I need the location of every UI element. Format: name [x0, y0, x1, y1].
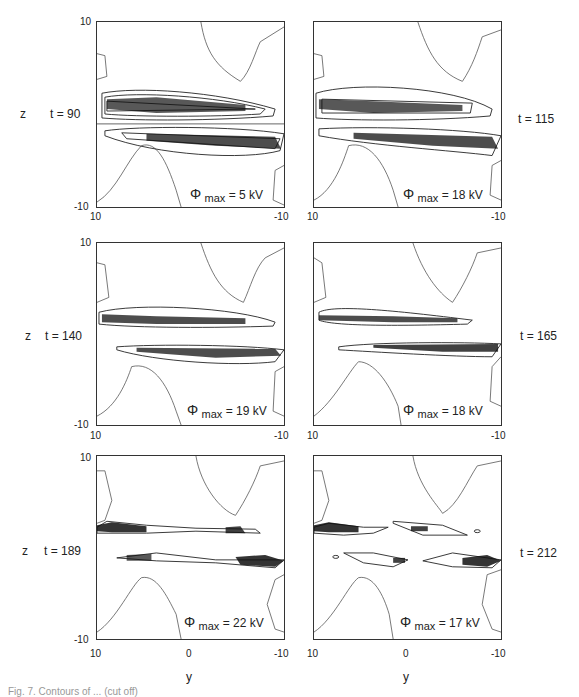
y-tick-left: 10: [307, 648, 318, 659]
y-tick-left: 10: [307, 211, 318, 222]
y-tick-left: 10: [307, 430, 318, 441]
z-tick-top: 10: [80, 452, 91, 463]
phi-symbol: Φ: [403, 186, 414, 202]
contour-plot: [97, 456, 284, 639]
contour-panel-t115: [313, 21, 502, 208]
phi-value: = 19 kV: [226, 404, 267, 418]
phi-symbol: Φ: [400, 614, 411, 630]
figure-caption: Fig. 7. Contours of ... (cut off): [8, 686, 138, 697]
z-axis-label-row2: z: [25, 329, 31, 343]
y-tick-right: -10: [491, 430, 505, 441]
phi-value: = 5 kV: [229, 188, 263, 202]
contour-plot: [97, 243, 284, 425]
phi-max-label-t189: Φ max = 22 kV: [184, 614, 264, 630]
phi-value: = 17 kV: [439, 616, 480, 630]
z-axis-label-row3: z: [22, 544, 28, 558]
y-tick-center: 0: [403, 648, 409, 659]
time-label-t115: t = 115: [518, 112, 554, 126]
phi-symbol: Φ: [403, 402, 414, 418]
y-tick-left: 10: [90, 211, 101, 222]
y-tick-center: 0: [186, 648, 192, 659]
contour-panel-t189: [96, 455, 285, 640]
phi-symbol: Φ: [184, 614, 195, 630]
phi-symbol: Φ: [187, 402, 198, 418]
time-label-t165: t = 165: [520, 329, 557, 343]
contour-plot: [97, 22, 284, 207]
y-axis-label: y: [403, 670, 409, 684]
y-tick-right: -10: [274, 430, 288, 441]
contour-panel-t212: [313, 455, 502, 640]
contour-plot: [314, 456, 501, 639]
y-tick-right: -10: [491, 211, 505, 222]
phi-max-label-t140: Φ max = 19 kV: [187, 402, 267, 418]
z-tick-top: 10: [80, 237, 91, 248]
z-tick-bottom: -10: [74, 419, 88, 430]
contour-panel-t90: [96, 21, 285, 208]
y-tick-right: -10: [274, 648, 288, 659]
time-label-t90: t = 90: [50, 107, 80, 121]
z-tick-top: 10: [80, 16, 91, 27]
contour-panel-t165: [313, 242, 502, 426]
y-tick-right: -10: [491, 648, 505, 659]
time-label-t140: t = 140: [45, 329, 82, 343]
z-tick-bottom: -10: [74, 201, 88, 212]
phi-subscript: max: [205, 192, 226, 204]
phi-symbol: Φ: [190, 186, 201, 202]
contour-plot: [314, 22, 501, 207]
contour-panel-t140: [96, 242, 285, 426]
phi-max-label-t90: Φ max = 5 kV: [190, 186, 263, 202]
phi-subscript: max: [202, 408, 223, 420]
phi-max-label-t165: Φ max = 18 kV: [403, 402, 483, 418]
y-tick-right: -10: [274, 211, 288, 222]
z-axis-label-row1: z: [20, 107, 26, 121]
phi-max-label-t212: Φ max = 17 kV: [400, 614, 480, 630]
phi-max-label-t115: Φ max = 18 kV: [403, 186, 483, 202]
contour-plot: [314, 243, 501, 425]
phi-subscript: max: [415, 620, 436, 632]
phi-value: = 22 kV: [223, 616, 264, 630]
time-label-t189: t = 189: [44, 544, 81, 558]
y-axis-label: y: [186, 670, 192, 684]
time-label-t212: t = 212: [520, 546, 557, 560]
phi-subscript: max: [199, 620, 220, 632]
phi-value: = 18 kV: [442, 188, 483, 202]
phi-subscript: max: [418, 408, 439, 420]
z-tick-bottom: -10: [74, 634, 88, 645]
phi-subscript: max: [418, 192, 439, 204]
y-tick-left: 10: [90, 648, 101, 659]
y-tick-left: 10: [90, 430, 101, 441]
phi-value: = 18 kV: [442, 404, 483, 418]
